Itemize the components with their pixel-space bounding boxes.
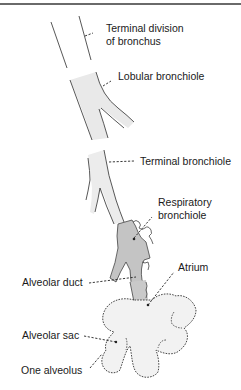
leader-lobular-bronchiole <box>103 81 111 86</box>
label-terminal-division-bronchus: Terminal division of bronchus <box>106 22 184 48</box>
label-atrium: Atrium <box>178 261 208 274</box>
label-lobular-bronchiole: Lobular bronchiole <box>118 70 204 83</box>
leader-one-alveolus <box>90 354 102 368</box>
leader-terminal-division <box>85 33 93 36</box>
label-one-alveolus: One alveolus <box>21 364 82 377</box>
label-alveolar-duct: Alveolar duct <box>22 276 83 289</box>
respiratory-bronchiole <box>110 220 153 292</box>
terminal-bronchiole <box>86 150 124 224</box>
label-respiratory-bronchiole: Respiratory bronchiole <box>158 196 212 222</box>
terminal-division-bronchus <box>51 16 91 68</box>
leader-terminal-bronchiole <box>109 161 134 162</box>
label-alveolar-sac: Alveolar sac <box>22 329 79 342</box>
label-terminal-bronchiole: Terminal bronchiole <box>140 155 231 168</box>
alveolar-duct <box>130 280 148 302</box>
alveolar-sac-cluster <box>102 294 196 377</box>
